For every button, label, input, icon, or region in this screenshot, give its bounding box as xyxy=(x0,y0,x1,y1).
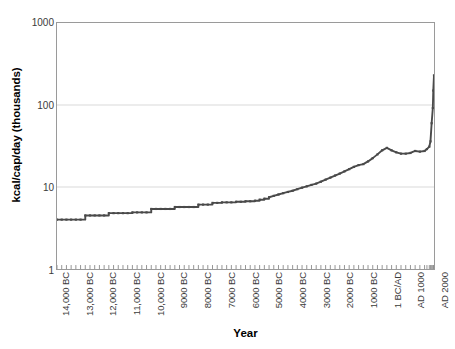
data-point-marker xyxy=(240,201,242,203)
data-point-marker xyxy=(306,185,308,187)
data-point-marker xyxy=(414,150,416,152)
data-point-marker xyxy=(400,153,402,155)
y-axis-tick-label: 10 xyxy=(28,182,54,193)
data-point-marker xyxy=(358,164,360,166)
data-point-marker xyxy=(122,212,124,214)
data-point-marker xyxy=(259,199,261,201)
data-point-marker xyxy=(273,195,275,197)
data-point-marker xyxy=(348,168,350,170)
data-point-marker xyxy=(287,191,289,193)
y-axis-tick-labels: 1000100101 xyxy=(26,0,54,349)
data-point-marker xyxy=(405,153,407,155)
y-axis-tick-label: 1 xyxy=(28,265,54,276)
data-point-marker xyxy=(367,160,369,162)
data-point-marker xyxy=(164,208,166,210)
x-axis-tick-label: 8000 BC xyxy=(202,272,213,308)
data-point-marker xyxy=(432,107,434,109)
data-point-marker xyxy=(70,219,72,221)
data-point-marker xyxy=(136,211,138,213)
data-point-marker xyxy=(296,188,298,190)
data-point-marker xyxy=(65,219,67,221)
data-point-marker xyxy=(419,151,421,153)
data-point-marker xyxy=(339,172,341,174)
data-point-marker xyxy=(362,163,364,165)
x-axis-tick-label: 4000 BC xyxy=(297,272,308,308)
x-axis-tick-label: 6000 BC xyxy=(250,272,261,308)
data-point-marker xyxy=(428,146,430,148)
data-point-marker xyxy=(249,200,251,202)
x-axis-tick-label: 2000 BC xyxy=(344,272,355,308)
data-point-marker xyxy=(310,184,312,186)
x-axis-tick-label: 11,000 BC xyxy=(131,272,142,315)
data-point-marker xyxy=(423,150,425,152)
data-point-marker xyxy=(108,212,110,214)
x-axis-tick-label: 10,000 BC xyxy=(155,272,166,316)
y-axis-tick-label: 100 xyxy=(28,99,54,110)
x-axis-tick-marks xyxy=(57,265,434,269)
data-point-marker xyxy=(79,219,81,221)
data-point-marker xyxy=(174,206,176,208)
plot-area xyxy=(56,22,435,270)
data-point-marker xyxy=(235,201,237,203)
data-point-marker xyxy=(386,147,388,149)
data-point-marker xyxy=(207,204,209,206)
data-point-marker xyxy=(334,174,336,176)
data-point-marker xyxy=(61,219,63,221)
data-point-marker xyxy=(372,157,374,159)
y-axis-title-label: kcal/cap/day (thousands) xyxy=(9,68,21,203)
data-point-marker xyxy=(268,196,270,198)
data-point-marker xyxy=(277,193,279,195)
x-axis-tick-label: AD 2000 xyxy=(439,272,450,308)
data-line xyxy=(57,75,434,219)
data-point-marker xyxy=(202,204,204,206)
data-point-marker xyxy=(103,214,105,216)
data-point-marker xyxy=(183,206,185,208)
data-point-marker xyxy=(178,206,180,208)
plot-svg xyxy=(57,23,434,269)
data-point-marker xyxy=(188,206,190,208)
data-point-marker xyxy=(145,211,147,213)
data-point-marker xyxy=(221,201,223,203)
y-axis-tick-label: 1000 xyxy=(28,17,54,28)
data-point-marker xyxy=(94,214,96,216)
data-point-marker xyxy=(263,198,265,200)
data-point-marker xyxy=(84,214,86,216)
data-point-marker xyxy=(343,170,345,172)
data-point-marker xyxy=(75,219,77,221)
gridlines xyxy=(57,105,434,187)
data-point-marker xyxy=(169,208,171,210)
data-point-marker xyxy=(193,206,195,208)
data-point-marker xyxy=(254,200,256,202)
data-point-marker xyxy=(244,200,246,202)
data-point-marker xyxy=(57,219,58,221)
data-point-marker xyxy=(376,153,378,155)
data-point-marker xyxy=(325,179,327,181)
x-axis-tick-label: 1 BC/AD xyxy=(392,272,403,308)
data-point-marker xyxy=(431,122,433,124)
data-point-marker xyxy=(429,140,431,142)
data-point-marker xyxy=(150,208,152,210)
x-axis-title: Year xyxy=(56,327,435,339)
x-axis-tick-label: 3000 BC xyxy=(321,272,332,308)
data-point-marker xyxy=(282,192,284,194)
data-point-marker xyxy=(315,183,317,185)
data-point-marker xyxy=(390,149,392,151)
data-point-marker xyxy=(211,202,213,204)
data-point-marker xyxy=(155,208,157,210)
data-point-marker xyxy=(160,208,162,210)
x-axis-tick-label: 7000 BC xyxy=(226,272,237,308)
data-point-marker xyxy=(292,190,294,192)
data-point-marker xyxy=(432,89,434,91)
data-point-marker xyxy=(353,166,355,168)
data-point-marker xyxy=(98,214,100,216)
x-axis-title-label: Year xyxy=(233,327,257,339)
data-point-marker xyxy=(230,201,232,203)
data-point-marker xyxy=(409,152,411,154)
data-point-marker xyxy=(381,149,383,151)
data-point-marker xyxy=(329,177,331,179)
x-axis-tick-label: 1000 BC xyxy=(368,272,379,308)
x-axis-tick-label: 9000 BC xyxy=(178,272,189,308)
x-axis-tick-label: AD 1000 xyxy=(415,272,426,308)
data-point-marker xyxy=(141,211,143,213)
data-point-marker xyxy=(117,212,119,214)
